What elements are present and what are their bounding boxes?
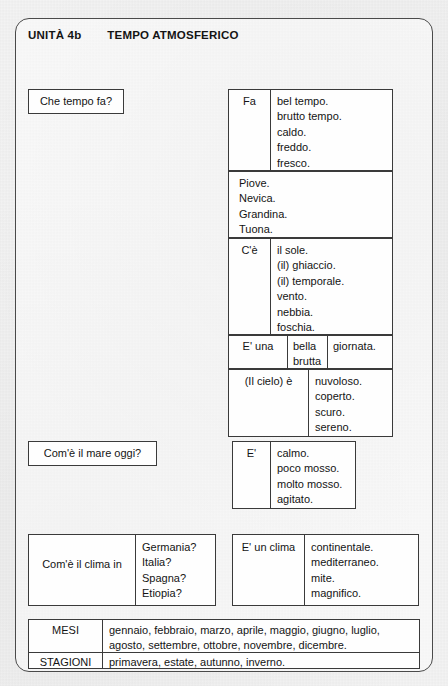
cielo-column-divider <box>308 370 309 436</box>
question-sea-text: Com'è il mare oggi? <box>44 446 141 461</box>
ce-item: nebbia. <box>277 305 344 320</box>
ce-item: vento. <box>277 289 344 304</box>
question-block-climate: Com'è il clima in Germania? Italia? Spag… <box>28 534 216 606</box>
climate-country: Italia? <box>142 555 196 570</box>
fa-item: bel tempo. <box>277 94 342 109</box>
sea-item: agitato. <box>277 492 342 507</box>
question-weather-text: Che tempo fa? <box>40 94 112 109</box>
worksheet-page: UNITÀ 4bTEMPO ATMOSFERICO Che tempo fa? … <box>15 18 433 672</box>
ce-column-divider <box>270 239 271 334</box>
calendar-label-text: MESI <box>29 623 102 638</box>
calendar-row-label-stagioni: STAGIONI <box>29 655 102 670</box>
calendar-value-line: primavera, estate, autunno, inverno. <box>109 655 285 670</box>
calendar-value-line: gennaio, febbraio, marzo, aprile, maggio… <box>109 623 380 638</box>
euna-adjectives-cell: bella brutta <box>293 339 321 370</box>
climate-item: magnifico. <box>311 586 379 601</box>
cielo-item: coperto. <box>315 389 362 404</box>
sea-item: molto mosso. <box>277 477 342 492</box>
calendar-value-line: agosto, settembre, ottobre, novembre, di… <box>109 638 380 653</box>
question-box-sea: Com'è il mare oggi? <box>28 441 157 466</box>
impersonal-items-cell: Piove. Nevica. Grandina. Tuona. <box>239 176 287 238</box>
answer-block-euna: E' una bella brutta giornata. <box>228 335 393 369</box>
climate-subject-cell: E' un clima <box>233 540 304 555</box>
sea-subject-cell: E' <box>233 446 270 461</box>
climate-item: mite. <box>311 571 379 586</box>
fa-item: brutto tempo. <box>277 109 342 124</box>
climate-question-divider <box>135 535 136 605</box>
euna-subject-cell: E' una <box>229 339 287 354</box>
climate-subject-text: E' un clima <box>233 540 304 555</box>
page-header: UNITÀ 4bTEMPO ATMOSFERICO <box>28 29 239 41</box>
ce-subject-text: C'è <box>229 243 270 258</box>
climate-question-text: Com'è il clima in <box>29 557 135 572</box>
cielo-subject-cell: (Il cielo) è <box>229 374 308 389</box>
ce-item: il sole. <box>277 243 344 258</box>
fa-subject-cell: Fa <box>229 94 270 109</box>
ce-subject-cell: C'è <box>229 243 270 258</box>
euna-noun-cell: giornata. <box>333 339 376 354</box>
calendar-column-divider <box>102 620 103 668</box>
ce-item: (il) temporale. <box>277 274 344 289</box>
climate-item: continentale. <box>311 540 379 555</box>
calendar-row-label-mesi: MESI <box>29 623 102 638</box>
climate-country: Spagna? <box>142 571 196 586</box>
calendar-table: MESI gennaio, febbraio, marzo, aprile, m… <box>28 619 420 669</box>
ce-items-cell: il sole. (il) ghiaccio. (il) temporale. … <box>277 243 344 335</box>
answer-block-climate: E' un clima continentale. mediterraneo. … <box>232 534 419 606</box>
calendar-row-values-mesi: gennaio, febbraio, marzo, aprile, maggio… <box>109 623 380 654</box>
page-title: TEMPO ATMOSFERICO <box>107 29 238 41</box>
cielo-item: scuro. <box>315 405 362 420</box>
fa-column-divider <box>270 90 271 170</box>
answer-block-impersonal: Piove. Nevica. Grandina. Tuona. <box>228 171 393 238</box>
fa-item: caldo. <box>277 125 342 140</box>
euna-noun-text: giornata. <box>333 339 376 354</box>
sea-column-divider <box>270 442 271 508</box>
ce-item: (il) ghiaccio. <box>277 258 344 273</box>
impersonal-item: Grandina. <box>239 207 287 222</box>
unit-label: UNITÀ 4b <box>28 29 81 41</box>
climate-items-cell: continentale. mediterraneo. mite. magnif… <box>311 540 379 602</box>
cielo-subject-text: (Il cielo) è <box>229 374 308 389</box>
answer-block-sea: E' calmo. poco mosso. molto mosso. agita… <box>232 441 356 509</box>
answer-block-fa: Fa bel tempo. brutto tempo. caldo. fredd… <box>228 89 393 171</box>
calendar-row-values-stagioni: primavera, estate, autunno, inverno. <box>109 655 285 670</box>
answer-block-cielo: (Il cielo) è nuvoloso. coperto. scuro. s… <box>228 369 393 437</box>
cielo-items-cell: nuvoloso. coperto. scuro. sereno. <box>315 374 362 436</box>
euna-adjective: brutta <box>293 354 321 369</box>
cielo-item: nuvoloso. <box>315 374 362 389</box>
answer-block-ce: C'è il sole. (il) ghiaccio. (il) tempora… <box>228 238 393 335</box>
question-box-weather: Che tempo fa? <box>28 89 124 114</box>
climate-item: mediterraneo. <box>311 555 379 570</box>
impersonal-item: Piove. <box>239 176 287 191</box>
climate-country: Etiopia? <box>142 586 196 601</box>
sea-item: calmo. <box>277 446 342 461</box>
cielo-item: sereno. <box>315 420 362 435</box>
fa-items-cell: bel tempo. brutto tempo. caldo. freddo. … <box>277 94 342 171</box>
sea-item: poco mosso. <box>277 461 342 476</box>
climate-country: Germania? <box>142 540 196 555</box>
sea-subject-text: E' <box>233 446 270 461</box>
climate-countries-cell: Germania? Italia? Spagna? Etiopia? <box>142 540 196 602</box>
sea-items-cell: calmo. poco mosso. molto mosso. agitato. <box>277 446 342 508</box>
euna-divider-1 <box>287 336 288 368</box>
fa-item: freddo. <box>277 140 342 155</box>
euna-subject-text: E' una <box>229 339 287 354</box>
impersonal-item: Tuona. <box>239 222 287 237</box>
fa-item: fresco. <box>277 156 342 171</box>
ce-item: foschia. <box>277 320 344 335</box>
calendar-label-text: STAGIONI <box>29 655 102 670</box>
climate-question-cell: Com'è il clima in <box>29 557 135 572</box>
fa-subject-text: Fa <box>229 94 270 109</box>
euna-divider-2 <box>327 336 328 368</box>
euna-adjective: bella <box>293 339 321 354</box>
climate-answer-divider <box>304 535 305 605</box>
impersonal-item: Nevica. <box>239 191 287 206</box>
